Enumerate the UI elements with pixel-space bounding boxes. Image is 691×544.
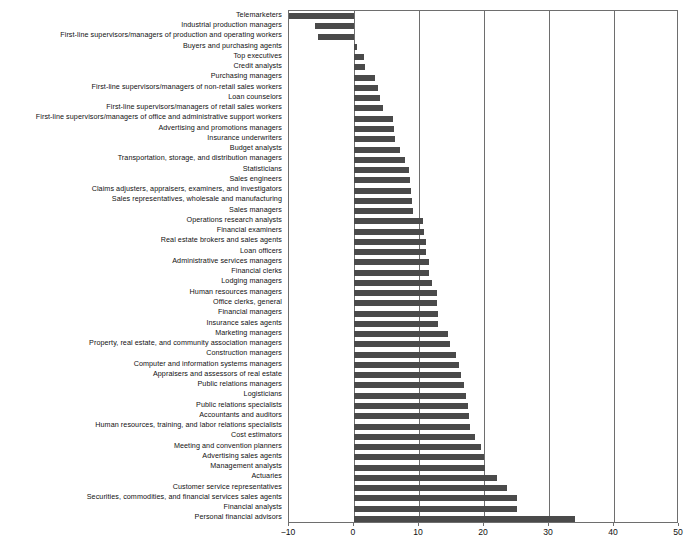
x-tick-label: 30: [543, 527, 553, 537]
category-label: Advertising sales agents: [202, 452, 282, 460]
bar: [354, 54, 364, 60]
bar: [354, 475, 497, 481]
category-label: Computer and information systems manager…: [134, 360, 282, 368]
category-label: First-line supervisors/managers of retai…: [106, 103, 282, 111]
x-tick-mark: [418, 523, 419, 526]
bar: [289, 13, 354, 19]
category-label: Insurance sales agents: [206, 319, 282, 327]
category-label: First-line supervisors/managers of produ…: [60, 31, 282, 39]
bar: [354, 444, 481, 450]
bar: [354, 126, 394, 132]
bar: [354, 352, 456, 358]
category-label: Financial managers: [218, 308, 282, 316]
category-label: Logisticians: [244, 390, 282, 398]
category-label: Operations research analysts: [187, 216, 283, 224]
category-label: Human resources, training, and labor rel…: [95, 421, 282, 429]
x-tick-mark: [483, 523, 484, 526]
category-label: Advertising and promotions managers: [158, 124, 282, 132]
category-label: Cost estimators: [231, 431, 282, 439]
category-label: Industrial production managers: [181, 21, 282, 29]
category-label: Lodging managers: [221, 277, 282, 285]
x-tick-label: 40: [608, 527, 618, 537]
category-label: Marketing managers: [215, 329, 282, 337]
bar: [354, 177, 410, 183]
category-label: Securities, commodities, and financial s…: [87, 493, 282, 501]
category-label: Telemarketers: [236, 11, 282, 19]
category-label: Sales engineers: [229, 175, 282, 183]
bar: [315, 23, 354, 29]
bar: [354, 188, 411, 194]
bar: [354, 341, 450, 347]
bar: [354, 270, 429, 276]
category-label: Purchasing managers: [211, 72, 282, 80]
category-label: Financial examiners: [217, 226, 282, 234]
category-label: Insurance underwriters: [207, 134, 282, 142]
category-label: Personal financial advisors: [195, 513, 282, 521]
bar: [354, 413, 469, 419]
bar: [354, 136, 395, 142]
category-label-column: TelemarketersIndustrial production manag…: [0, 10, 285, 523]
category-label: Office clerks, general: [213, 298, 282, 306]
category-label: Loan counselors: [228, 93, 282, 101]
bar: [354, 105, 383, 111]
bar: [354, 506, 517, 512]
category-label: First-line supervisors/managers of non-r…: [92, 83, 282, 91]
category-label: Management analysts: [210, 462, 282, 470]
bar: [354, 403, 468, 409]
bar: [354, 218, 423, 224]
bar: [354, 167, 409, 173]
category-label: Transportation, storage, and distributio…: [118, 154, 282, 162]
bar: [354, 485, 507, 491]
category-label: Accountants and auditors: [199, 411, 282, 419]
x-tick-label: 50: [673, 527, 683, 537]
bar: [354, 290, 437, 296]
x-tick-label: 0: [351, 527, 356, 537]
category-label: Actuaries: [251, 472, 282, 480]
category-label: Administrative services managers: [172, 257, 282, 265]
category-label: Financial clerks: [231, 267, 282, 275]
category-label: Construction managers: [206, 349, 282, 357]
bar: [354, 393, 466, 399]
bar: [354, 495, 517, 501]
bar: [354, 465, 485, 471]
gridline-40: [614, 11, 615, 522]
bar: [354, 116, 393, 122]
bar: [354, 300, 437, 306]
x-tick-mark: [288, 523, 289, 526]
bar: [354, 382, 464, 388]
bar: [354, 208, 413, 214]
bar: [354, 516, 575, 522]
category-label: Statisticians: [243, 165, 282, 173]
category-label: Credit analysts: [233, 62, 282, 70]
category-label: Claims adjusters, appraisers, examiners,…: [92, 185, 282, 193]
category-label: Human resources managers: [190, 288, 282, 296]
bar: [354, 331, 448, 337]
bar: [354, 249, 426, 255]
bar: [354, 259, 429, 265]
bar: [318, 34, 354, 40]
x-tick-mark: [353, 523, 354, 526]
bar: [354, 95, 380, 101]
bar: [354, 362, 459, 368]
bar: [354, 454, 484, 460]
x-tick-mark: [613, 523, 614, 526]
x-tick-label: 10: [413, 527, 423, 537]
category-label: Real estate brokers and sales agents: [161, 236, 282, 244]
bar: [354, 44, 357, 50]
gridline-30: [549, 11, 550, 522]
bar: [354, 372, 461, 378]
bar: [354, 280, 432, 286]
bar: [354, 64, 365, 70]
category-label: Top executives: [233, 52, 282, 60]
bar: [354, 157, 405, 163]
bar: [354, 424, 470, 430]
bar: [354, 75, 375, 81]
horizontal-bar-chart: TelemarketersIndustrial production manag…: [0, 0, 691, 544]
category-label: Budget analysts: [230, 144, 282, 152]
gridline-20: [484, 11, 485, 522]
category-label: Appraisers and assessors of real estate: [153, 370, 282, 378]
category-label: Public relations specialists: [196, 401, 282, 409]
category-label: Sales representatives, wholesale and man…: [112, 195, 282, 203]
bar: [354, 85, 378, 91]
category-label: Buyers and purchasing agents: [183, 42, 282, 50]
